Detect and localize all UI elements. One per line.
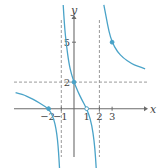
- left-branch: [16, 93, 60, 168]
- filled-point: [47, 107, 51, 111]
- filled-point: [110, 40, 114, 44]
- x-axis-label: x: [150, 103, 157, 116]
- y-tick-label: 2: [64, 77, 70, 88]
- axes: [14, 15, 148, 157]
- graph-plot: −2−112325 x y: [0, 0, 162, 168]
- filled-point: [72, 80, 76, 84]
- y-axis-label: y: [70, 4, 78, 17]
- x-tick-label: −1: [53, 111, 68, 122]
- right-branch: [104, 5, 145, 69]
- marked-points: [47, 40, 114, 110]
- x-tick-label: 2: [96, 111, 102, 122]
- function-curves: [16, 5, 146, 168]
- x-axis-arrow-icon: [144, 106, 148, 111]
- asymptote-lines: [14, 20, 147, 157]
- x-tick-label: 3: [109, 111, 115, 122]
- open-point: [85, 107, 89, 111]
